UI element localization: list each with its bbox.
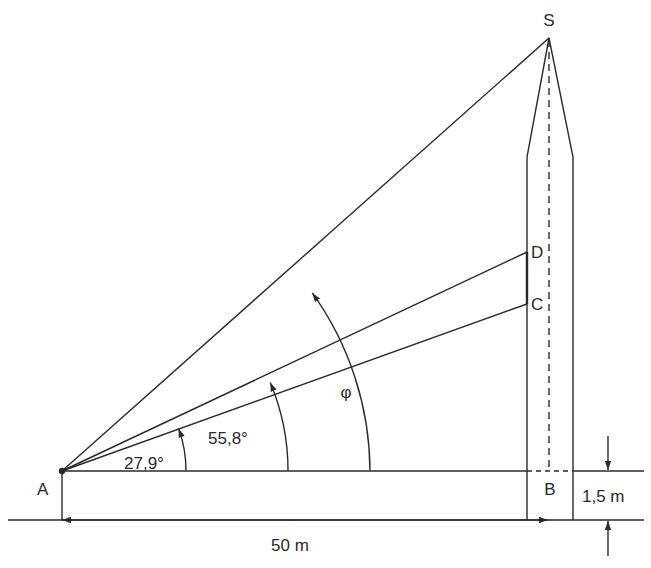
tower-outline xyxy=(527,38,573,520)
angle-arc-27-9 xyxy=(179,428,186,471)
diagram-canvas: S D C A B 27,9° 55,8° φ 50 m 1,5 m xyxy=(0,0,651,568)
label-D: D xyxy=(531,243,543,262)
label-B: B xyxy=(544,480,555,499)
angle-label-55-8: 55,8° xyxy=(208,429,248,448)
angle-label-phi: φ xyxy=(340,383,351,402)
distance-label: 50 m xyxy=(271,536,309,555)
label-C: C xyxy=(531,295,543,314)
point-A-dot xyxy=(59,468,65,474)
label-A: A xyxy=(37,480,49,499)
angle-label-27-9: 27,9° xyxy=(124,454,164,473)
sight-line-AD xyxy=(62,252,527,471)
sight-line-AS xyxy=(62,38,549,471)
sight-line-AC xyxy=(62,304,527,471)
height-label: 1,5 m xyxy=(582,487,625,506)
label-S: S xyxy=(543,11,554,30)
angle-arc-phi xyxy=(312,293,370,471)
